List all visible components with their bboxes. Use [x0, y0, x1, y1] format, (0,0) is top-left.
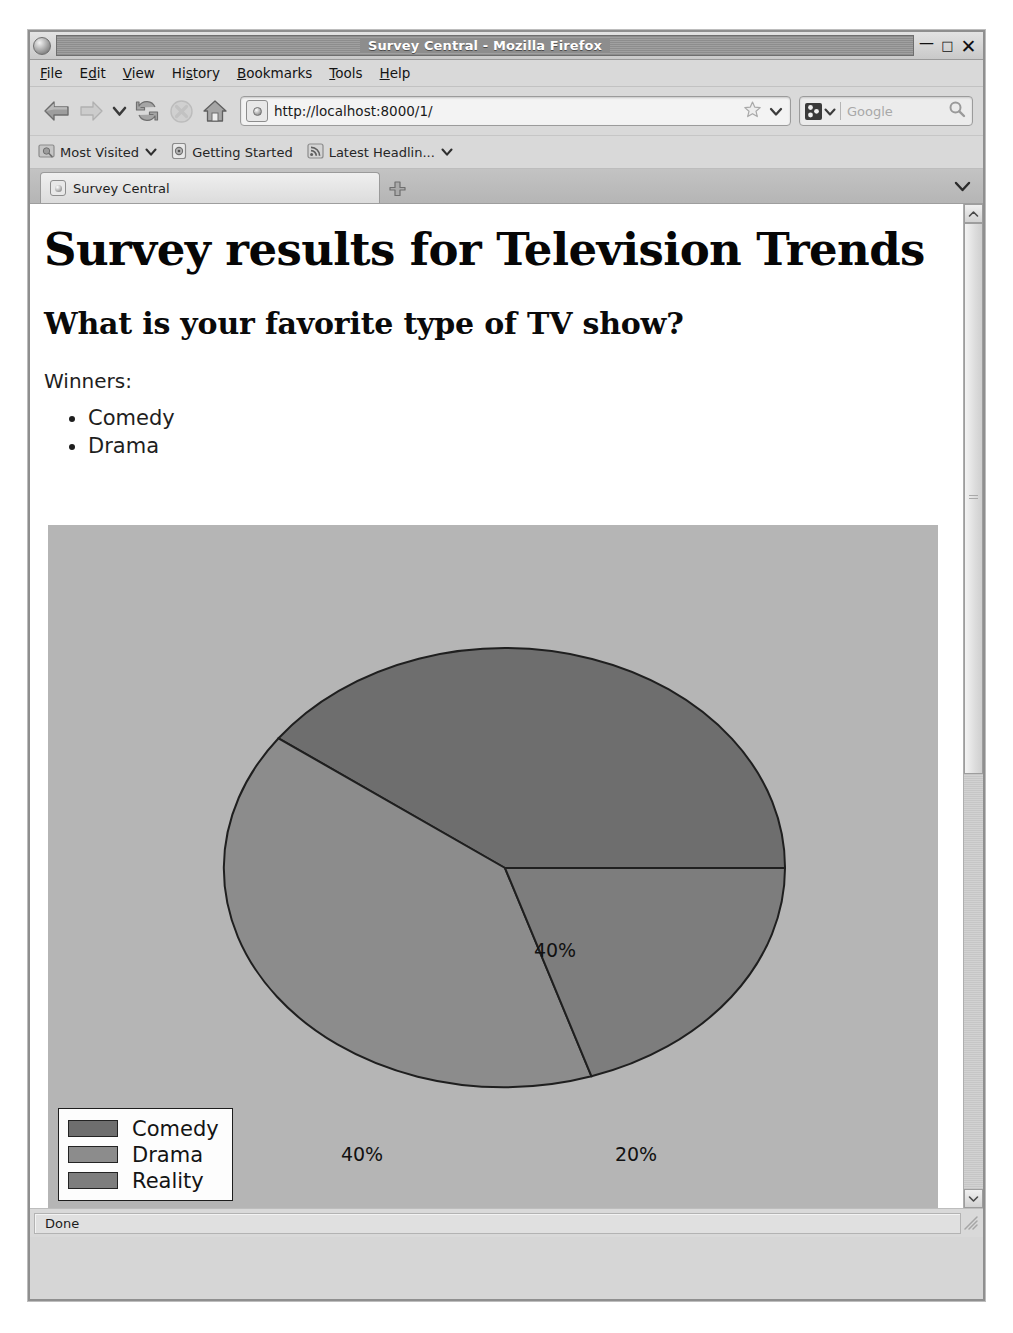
search-input[interactable]: Google: [847, 104, 948, 119]
firefox-app-icon: [33, 37, 51, 55]
tab-survey-central[interactable]: Survey Central: [40, 172, 380, 203]
list-item: Comedy: [88, 405, 963, 433]
status-bar: Done: [30, 1208, 983, 1237]
folder-icon: [38, 143, 55, 162]
star-icon[interactable]: [743, 100, 762, 123]
chart-legend: Comedy Drama Reality: [58, 1108, 233, 1201]
page-title: Survey results for Television Trends: [44, 226, 963, 273]
legend-swatch-comedy: [68, 1120, 118, 1137]
close-button[interactable]: ✕: [958, 34, 979, 57]
scrollbar-grip: [969, 495, 978, 501]
url-dropdown-chevron-icon[interactable]: [769, 102, 783, 121]
page-question: What is your favorite type of TV show?: [44, 306, 963, 341]
scrollbar-thumb[interactable]: [964, 223, 983, 774]
address-bar[interactable]: http://localhost:8000/1/: [240, 96, 791, 126]
window-title-strip: Survey Central - Mozilla Firefox: [56, 35, 914, 56]
menu-item-file[interactable]: File: [40, 63, 73, 83]
reload-icon[interactable]: [130, 94, 164, 128]
pie-label-comedy: 40%: [534, 939, 576, 961]
menu-bar: File Edit View History Bookmarks Tools H…: [30, 60, 983, 87]
home-icon[interactable]: [198, 94, 232, 128]
scrollbar-track[interactable]: [964, 223, 983, 1189]
bookmark-most-visited[interactable]: Most Visited: [38, 143, 157, 162]
pie-label-drama: 40%: [341, 1143, 383, 1165]
bookmarks-toolbar: Most Visited Getting Started: [30, 136, 983, 169]
magnifier-icon[interactable]: [948, 100, 966, 122]
status-text: Done: [45, 1216, 79, 1231]
winners-label: Winners:: [44, 369, 963, 393]
bookmark-getting-started[interactable]: Getting Started: [171, 143, 293, 162]
vertical-scrollbar[interactable]: [963, 204, 983, 1208]
status-field: Done: [34, 1213, 961, 1234]
content-area: Survey results for Television Trends Wha…: [30, 204, 983, 1208]
bookmark-label: Getting Started: [192, 145, 293, 160]
bookmark-latest-headlines[interactable]: Latest Headlin...: [307, 143, 453, 162]
chevron-down-icon[interactable]: [145, 145, 157, 160]
pie-label-reality: 20%: [615, 1143, 657, 1165]
legend-row: Reality: [68, 1168, 219, 1193]
pie-chart-svg: 40% 40% 20%: [48, 525, 938, 1208]
history-dropdown-chevron-icon[interactable]: [108, 94, 130, 128]
minimize-button[interactable]: —: [916, 32, 937, 60]
bookmark-label: Most Visited: [60, 145, 139, 160]
pie-chart-image: 40% 40% 20% Comedy Drama Realit: [48, 525, 938, 1208]
url-text[interactable]: http://localhost:8000/1/: [274, 103, 743, 119]
firefox-icon: [171, 143, 187, 162]
back-arrow-icon[interactable]: [40, 94, 74, 128]
search-engine-chevron-icon[interactable]: [824, 102, 836, 121]
menu-item-history[interactable]: History: [172, 63, 230, 83]
menu-item-help[interactable]: Help: [380, 63, 421, 83]
legend-label: Comedy: [132, 1117, 219, 1141]
scroll-down-button[interactable]: [964, 1189, 983, 1208]
scroll-up-button[interactable]: [964, 204, 983, 223]
menu-item-edit[interactable]: Edit: [80, 63, 116, 83]
legend-row: Comedy: [68, 1116, 219, 1141]
window-titlebar: Survey Central - Mozilla Firefox — □ ✕: [30, 32, 983, 60]
stop-icon: [164, 94, 198, 128]
legend-swatch-reality: [68, 1172, 118, 1189]
page-favicon-icon: [50, 180, 66, 196]
menu-item-bookmarks[interactable]: Bookmarks: [237, 63, 322, 83]
legend-row: Drama: [68, 1142, 219, 1167]
tab-list-chevron-icon[interactable]: [954, 178, 971, 197]
legend-label: Drama: [132, 1143, 203, 1167]
browser-window: Survey Central - Mozilla Firefox — □ ✕ F…: [28, 30, 985, 1301]
list-item: Drama: [88, 433, 963, 461]
google-icon[interactable]: [805, 103, 822, 120]
menu-item-view[interactable]: View: [123, 63, 165, 83]
navigation-toolbar: http://localhost:8000/1/: [30, 87, 983, 136]
maximize-button[interactable]: □: [937, 34, 958, 57]
site-favicon-icon: [246, 100, 268, 122]
new-tab-button[interactable]: [380, 175, 414, 203]
tab-label: Survey Central: [73, 181, 170, 196]
winners-list: Comedy Drama: [30, 405, 963, 461]
tab-strip: Survey Central: [30, 169, 983, 204]
menu-item-tools[interactable]: Tools: [329, 63, 372, 83]
bookmark-label: Latest Headlin...: [329, 145, 435, 160]
legend-swatch-drama: [68, 1146, 118, 1163]
chevron-down-icon[interactable]: [441, 145, 453, 160]
forward-arrow-icon: [74, 94, 108, 128]
rss-feed-icon: [307, 143, 324, 162]
legend-label: Reality: [132, 1169, 204, 1193]
search-bar[interactable]: Google: [799, 96, 973, 126]
web-page: Survey results for Television Trends Wha…: [30, 204, 963, 1208]
resize-grip[interactable]: [963, 1215, 979, 1231]
window-title: Survey Central - Mozilla Firefox: [360, 38, 610, 53]
